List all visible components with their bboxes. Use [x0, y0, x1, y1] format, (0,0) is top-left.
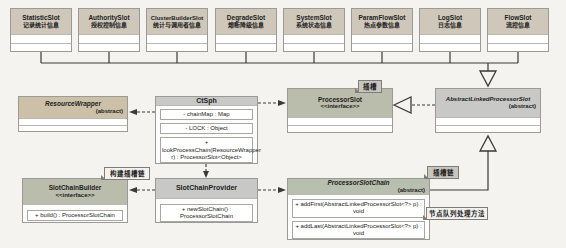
generalization-chain-to-abstract-linked [430, 136, 496, 190]
fields-compartment [288, 117, 392, 125]
methods-compartment [420, 43, 480, 52]
class-box-processor-slot-chain: ProcessorSlotChain (abstract) + addFirst… [287, 178, 430, 240]
class-desc: 流控信息 [488, 22, 548, 29]
class-desc: 日志信息 [420, 22, 480, 29]
dependency-ctsph-to-processor-slot [258, 100, 286, 106]
class-box-statistic-slot: StatisticSlot 记录统计信息 [10, 8, 72, 52]
class-box-ctsph: CtSph - chainMap : Map - LOCK : Object +… [155, 96, 258, 164]
members-compartment: + newSlotChain() : ProcessorSlotChain [156, 198, 257, 222]
method: + newSlotChain() : ProcessorSlotChain [160, 204, 253, 222]
method: + addFirst(AbstractLinkedProcessorSlot<?… [292, 199, 425, 217]
class-name: ProcessorSlot [288, 96, 392, 103]
class-header: AuthoritySlot 授权控制信息 [79, 9, 139, 34]
methods-compartment [488, 43, 548, 52]
members-compartment: + addFirst(AbstractLinkedProcessorSlot<?… [288, 194, 429, 239]
field: - LOCK : Object [160, 123, 253, 134]
arrowhead-right-icon [278, 187, 286, 193]
fields-compartment [352, 34, 412, 43]
hollow-triangle-left-icon [394, 97, 411, 113]
fields-compartment [147, 34, 207, 43]
class-header: ProcessorSlot <<interface>> [288, 89, 392, 117]
fields-compartment [436, 117, 540, 125]
method: + lookProcessChain(ResourceWrapper r) : … [160, 137, 253, 163]
class-name: AbstractLinkedProcessorSlot [436, 96, 540, 103]
class-name: CtSph [156, 97, 257, 105]
class-name: DegradeSlot [216, 14, 276, 21]
note-slot: 插槽 [358, 80, 382, 93]
fields-compartment [11, 34, 71, 43]
class-header: DegradeSlot 熔断降级信息 [216, 9, 276, 34]
note-slot-chain: 插槽链 [427, 166, 459, 179]
hollow-triangle-down-icon [480, 71, 496, 86]
class-name: ParamFlowSlot [352, 14, 412, 21]
class-desc: 系统状态信息 [284, 22, 344, 29]
arrowhead-left-icon [129, 109, 137, 115]
arrowhead-right-icon [278, 100, 286, 106]
class-desc: 授权控制信息 [79, 22, 139, 29]
class-desc: 记录统计信息 [11, 22, 71, 29]
class-name: SystemSlot [284, 14, 344, 21]
fields-compartment [216, 34, 276, 43]
members-compartment: - chainMap : Map - LOCK : Object + lookP… [156, 105, 257, 163]
hollow-triangle-up-icon [480, 136, 496, 151]
class-box-system-slot: SystemSlot 系统状态信息 [283, 8, 345, 52]
arrowhead-down-icon [203, 171, 209, 178]
class-box-authority-slot: AuthoritySlot 授权控制信息 [78, 8, 140, 52]
class-desc: 热点参数信息 [352, 22, 412, 29]
methods-compartment [284, 43, 344, 52]
realization-abstract-linked-to-processor-slot [394, 97, 435, 113]
class-box-slot-chain-provider: SlotChainProvider + newSlotChain() : Pro… [155, 178, 258, 223]
fields-compartment [79, 34, 139, 43]
members-compartment: + build() : ProcessorSlotChain [23, 204, 127, 222]
class-name: LogSlot [420, 14, 480, 21]
field: - chainMap : Map [160, 109, 253, 120]
class-box-resource-wrapper: ResourceWrapper (abstract) [18, 96, 128, 132]
methods-compartment [11, 43, 71, 52]
fields-compartment [284, 34, 344, 43]
class-name: FlowSlot [488, 14, 548, 21]
class-header: AbstractLinkedProcessorSlot (abstract) [436, 89, 540, 117]
dependency-provider-to-chain [258, 187, 286, 193]
class-header: SlotChainProvider [156, 179, 257, 198]
fields-compartment [420, 34, 480, 43]
class-name: SlotChainProvider [156, 184, 257, 192]
dependency-provider-to-builder [129, 187, 155, 193]
fields-compartment [488, 34, 548, 43]
methods-compartment [436, 125, 540, 133]
abstract-label: (abstract) [288, 187, 429, 194]
class-header: ParamFlowSlot 热点参数信息 [352, 9, 412, 34]
class-box-degrade-slot: DegradeSlot 熔断降级信息 [215, 8, 277, 52]
class-desc: 统计与调用者信息 [147, 22, 207, 29]
methods-compartment [352, 43, 412, 52]
class-header: SlotChainBuilder <<interface>> [23, 179, 127, 204]
class-box-slot-chain-builder: SlotChainBuilder <<interface>> + build()… [22, 178, 128, 223]
method: + build() : ProcessorSlotChain [27, 210, 123, 221]
methods-compartment [216, 43, 276, 52]
class-box-processor-slot: ProcessorSlot <<interface>> [287, 88, 393, 133]
methods-compartment [19, 125, 127, 132]
class-desc: 熔断降级信息 [216, 22, 276, 29]
uml-class-diagram: StatisticSlot 记录统计信息 AuthoritySlot 授权控制信… [0, 0, 566, 248]
method: + addLast(AbstractLinkedProcessorSlot<?>… [292, 221, 425, 239]
dependency-ctsph-to-resource-wrapper [129, 109, 155, 115]
class-name: AuthoritySlot [79, 14, 139, 21]
arrowhead-left-icon [129, 187, 137, 193]
class-box-flow-slot: FlowSlot 流控信息 [487, 8, 549, 52]
generalization-slots-to-abstract-linked [41, 52, 518, 86]
class-box-cluster-builder-slot: ClusterBuilderSlot 统计与调用者信息 [146, 8, 208, 52]
class-name: ClusterBuilderSlot [147, 15, 207, 22]
class-header: ResourceWrapper (abstract) [19, 97, 127, 118]
interface-stereotype: <<interface>> [288, 103, 392, 110]
class-header: ProcessorSlotChain (abstract) [288, 179, 429, 194]
methods-compartment [147, 43, 207, 52]
class-name: SlotChainBuilder [23, 184, 127, 191]
class-header: LogSlot 日志信息 [420, 9, 480, 34]
class-header: StatisticSlot 记录统计信息 [11, 9, 71, 34]
abstract-label: (abstract) [436, 103, 540, 110]
note-node-queue-methods: 节点队列处理方法 [426, 207, 488, 220]
interface-stereotype: <<interface>> [23, 192, 127, 199]
class-name: ProcessorSlotChain [288, 179, 429, 186]
methods-compartment [288, 125, 392, 133]
class-box-log-slot: LogSlot 日志信息 [419, 8, 481, 52]
note-build-chain: 构建插槽链 [104, 167, 150, 180]
